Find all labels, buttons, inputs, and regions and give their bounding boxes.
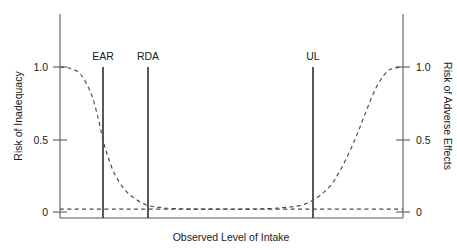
- y2-axis-title: Risk of Adverse Effects: [442, 62, 454, 170]
- right-tick-label-3: 0: [416, 206, 422, 218]
- y-axis-title: Risk of Inadequacy: [12, 71, 24, 161]
- dri-risk-chart: 1.0 0.5 0 1.0 0.5 0 EAR RDA UL Observed …: [0, 0, 457, 250]
- chart-canvas: 1.0 0.5 0 1.0 0.5 0 EAR RDA UL Observed …: [0, 0, 457, 250]
- right-tick-label-1: 1.0: [416, 61, 431, 73]
- right-tick-label-2: 0.5: [416, 134, 431, 146]
- left-tick-label-3: 0: [42, 206, 48, 218]
- ul-marker-label: UL: [306, 50, 320, 62]
- risk-of-adverse-effects-curve: [60, 67, 403, 209]
- rda-marker-label: RDA: [137, 50, 159, 62]
- ear-marker-label: EAR: [92, 50, 114, 62]
- x-axis-title: Observed Level of Intake: [173, 231, 290, 243]
- axis-frame: [60, 14, 403, 218]
- risk-of-inadequacy-curve: [60, 67, 403, 209]
- left-tick-label-2: 0.5: [33, 134, 48, 146]
- left-tick-label-1: 1.0: [33, 61, 48, 73]
- reference-markers: [103, 67, 313, 218]
